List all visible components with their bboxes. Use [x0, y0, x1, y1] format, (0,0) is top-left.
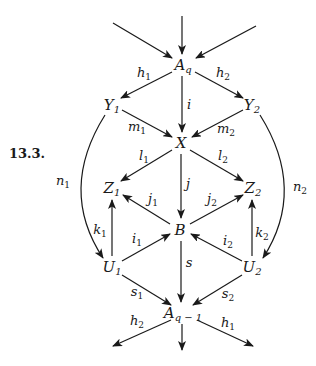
node-Aq1: Aq − 1 [164, 306, 202, 323]
edge-label-k2: k2 [255, 226, 269, 242]
edge-label-k1-base: k [93, 222, 101, 237]
edge-label-l2: l2 [218, 149, 228, 165]
edge-label-i1-subscript: 1 [136, 238, 142, 248]
edge-label-i1: i1 [132, 232, 142, 248]
edge-label-s2: s2 [222, 287, 234, 303]
edge-label-j1-subscript: 1 [152, 198, 158, 208]
commutative-diagram [0, 0, 316, 366]
node-Y1-subscript: 1 [114, 104, 120, 115]
edge-label-h2: h2 [130, 314, 144, 330]
edge-label-i2: i2 [223, 234, 233, 250]
edge-label-j2-subscript: 2 [211, 198, 217, 208]
edge-label-h2-subscript: 2 [138, 320, 144, 330]
edge-label-j: j [186, 177, 190, 190]
node-Y1: Y1 [104, 98, 120, 115]
edge-label-s2-subscript: 2 [228, 293, 234, 303]
node-Z1-base: Z [104, 179, 114, 197]
edge-label-m2-subscript: 2 [229, 128, 235, 138]
node-Y1-base: Y [104, 96, 114, 114]
edge-label-h2-subscript: 2 [224, 72, 230, 82]
edge-label-s: s [186, 256, 193, 269]
node-Y2: Y2 [244, 98, 260, 115]
node-Aq1-subscript: q − 1 [175, 312, 203, 323]
arrow-s2 [193, 275, 242, 305]
arrow-unlabeled-0 [113, 23, 172, 58]
edge-label-k1: k1 [93, 223, 107, 239]
edge-label-s2-base: s [222, 286, 229, 301]
node-Aq-subscript: q [185, 64, 191, 75]
edge-label-l1: l1 [139, 149, 149, 165]
arrow-unlabeled-2 [196, 26, 256, 58]
edge-label-l1-subscript: 1 [143, 155, 149, 165]
node-X: X [176, 136, 187, 151]
edge-label-j1: j1 [148, 192, 158, 208]
node-B: B [174, 223, 185, 238]
edge-label-k2-base: k [255, 225, 263, 240]
edge-label-m1-base: m [128, 119, 140, 134]
edge-label-i: i [187, 98, 191, 111]
edge-label-m1: m1 [128, 120, 146, 136]
node-Z1: Z1 [104, 181, 121, 198]
arrow-i1 [122, 234, 170, 261]
edge-label-s1-subscript: 1 [137, 291, 143, 301]
edge-label-k1-subscript: 1 [101, 229, 107, 239]
node-Y2-base: Y [244, 96, 254, 114]
edge-label-n1-subscript: 1 [64, 180, 70, 190]
edge-label-s1-base: s [131, 284, 138, 299]
edge-label-h1: h1 [221, 316, 235, 332]
node-U1-base: U [102, 258, 115, 276]
node-X-base: X [176, 134, 187, 152]
arrow-i2 [191, 234, 242, 261]
edge-label-n2: n2 [293, 180, 307, 196]
node-Z2: Z2 [245, 181, 262, 198]
node-Y2-subscript: 2 [254, 104, 260, 115]
edge-label-h2: h2 [216, 66, 230, 82]
edge-label-h1-subscript: 1 [145, 72, 151, 82]
edge-label-n1: n1 [56, 174, 70, 190]
node-U1-subscript: 1 [115, 266, 121, 277]
edge-label-l2-subscript: 2 [222, 155, 228, 165]
node-U2-base: U [242, 258, 255, 276]
edge-label-n2-subscript: 2 [301, 186, 307, 196]
edge-label-m1-subscript: 1 [140, 126, 146, 136]
node-B-base: B [174, 221, 185, 239]
edge-label-h1: h1 [137, 66, 151, 82]
node-U2: U2 [242, 260, 261, 277]
node-U1: U1 [102, 260, 121, 277]
node-Aq: Aq [174, 58, 191, 75]
node-U2-subscript: 2 [255, 266, 261, 277]
node-Z1-subscript: 1 [114, 187, 120, 198]
edge-label-h1-subscript: 1 [229, 322, 235, 332]
node-Z2-subscript: 2 [255, 187, 261, 198]
node-Z2-base: Z [245, 179, 255, 197]
arrow-s1 [122, 275, 171, 305]
arrow-j1 [123, 195, 170, 224]
edge-label-m2: m2 [217, 122, 235, 138]
edge-label-j2: j2 [207, 192, 217, 208]
edge-label-s1: s1 [131, 285, 143, 301]
edge-label-i2-subscript: 2 [227, 240, 233, 250]
figure-number: 13.3. [9, 146, 45, 161]
edge-label-j-base: j [186, 176, 190, 191]
edge-label-k2-subscript: 2 [263, 232, 269, 242]
edge-label-m2-base: m [217, 121, 229, 136]
node-Aq-base: A [174, 56, 185, 74]
edge-label-i-base: i [187, 97, 191, 112]
node-Aq1-base: A [164, 304, 175, 322]
edge-label-s-base: s [186, 255, 193, 270]
arrow-l2 [190, 150, 243, 181]
